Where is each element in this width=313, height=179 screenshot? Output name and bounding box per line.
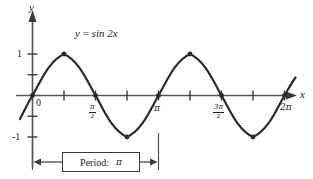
- period-annotation-box: Period: π: [62, 152, 140, 172]
- period-annotation-label: Period:: [80, 157, 109, 168]
- x-tick-label-pi: π: [154, 104, 160, 113]
- origin-label: 0: [36, 98, 41, 108]
- sine-graph-figure: y x y = sin 2x 0 1 -1 π 2 π 3π 2 2π Peri…: [0, 0, 313, 179]
- equation-lhs: y: [75, 27, 80, 39]
- fraction-denominator: 2: [89, 113, 96, 120]
- fraction-denominator: 2: [213, 113, 224, 120]
- y-tick-label-minus-1: -1: [12, 132, 20, 142]
- x-tick-label-2pi: 2π: [280, 103, 292, 112]
- x-tick-label-3pi-over-2: 3π 2: [213, 103, 224, 120]
- plot-canvas: [0, 0, 313, 179]
- fraction-pi-over-2: π 2: [89, 104, 96, 120]
- period-annotation-value: π: [116, 157, 122, 167]
- y-axis-label: y: [29, 2, 34, 13]
- equation-label: y = sin 2x: [75, 28, 118, 39]
- y-tick-label-1: 1: [17, 49, 22, 59]
- fraction-3pi-over-2: 3π 2: [213, 104, 224, 120]
- x-tick-label-pi-over-2: π 2: [89, 103, 96, 120]
- x-axis-label: x: [300, 89, 305, 100]
- equation-operator: =: [83, 27, 89, 39]
- equation-rhs: sin 2x: [92, 27, 118, 39]
